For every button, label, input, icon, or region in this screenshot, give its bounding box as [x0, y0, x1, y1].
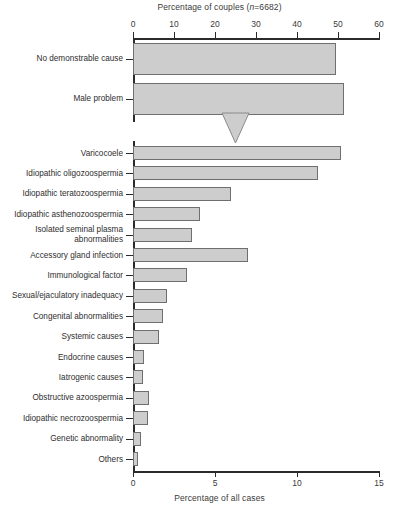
category-label: Immunological factor	[0, 271, 123, 281]
top-axis-tick	[297, 32, 298, 38]
bar[interactable]	[133, 207, 200, 221]
bar[interactable]	[133, 289, 167, 303]
top-axis-tick	[379, 32, 380, 38]
bottom-axis-tick	[215, 472, 216, 477]
top-axis-tick-label: 30	[251, 19, 260, 29]
category-tick	[126, 275, 133, 276]
bar[interactable]	[133, 432, 141, 446]
bar[interactable]	[133, 228, 192, 242]
category-label: Iatrogenic causes	[0, 373, 123, 383]
bar[interactable]	[133, 370, 143, 384]
category-tick	[126, 99, 133, 100]
category-tick	[126, 377, 133, 378]
bar[interactable]	[133, 187, 231, 201]
category-label: Accessory gland infection	[0, 251, 123, 261]
bottom-axis-tick	[379, 472, 380, 477]
category-tick	[126, 316, 133, 317]
category-tick	[126, 255, 133, 256]
bottom-axis-line	[133, 471, 380, 473]
category-label: Idiopathic asthenozoospermia	[0, 210, 123, 220]
category-tick	[126, 337, 133, 338]
bottom-axis-tick	[297, 472, 298, 477]
bar[interactable]	[133, 268, 187, 282]
bar[interactable]	[133, 43, 336, 75]
category-tick	[126, 439, 133, 440]
category-tick	[126, 459, 133, 460]
category-label: No demonstrable cause	[0, 54, 123, 64]
top-axis-tick	[338, 32, 339, 38]
category-label: Idiopathic teratozoospermia	[0, 189, 123, 199]
category-tick	[126, 398, 133, 399]
top-axis-tick-label: 50	[333, 19, 342, 29]
top-axis-line	[133, 38, 380, 40]
bar[interactable]	[133, 83, 344, 115]
category-label: Genetic abnormality	[0, 434, 123, 444]
down-triangle-marker-icon	[221, 112, 250, 144]
category-label: Obstructive azoospermia	[0, 393, 123, 403]
category-label: Idiopathic necrozoospermia	[0, 414, 123, 424]
category-label: Varicocoele	[0, 149, 123, 159]
bar[interactable]	[133, 330, 159, 344]
category-tick	[126, 214, 133, 215]
bar[interactable]	[133, 391, 149, 405]
category-tick	[126, 235, 133, 236]
category-tick	[126, 59, 133, 60]
category-tick	[126, 173, 133, 174]
bar[interactable]	[133, 248, 248, 262]
category-label: Isolated seminal plasma abnormalities	[0, 225, 123, 244]
top-axis-tick	[174, 32, 175, 38]
category-tick	[126, 357, 133, 358]
top-axis-tick-label: 20	[210, 19, 219, 29]
bar[interactable]	[133, 411, 148, 425]
infertility-causes-bar-chart: Percentage of couples (n=6682) 010203040…	[0, 0, 401, 511]
bottom-axis-tick-label: 10	[292, 478, 301, 488]
bottom-axis-title: Percentage of all cases	[0, 493, 401, 503]
category-tick	[126, 418, 133, 419]
bar[interactable]	[133, 309, 163, 323]
top-axis-tick-label: 0	[131, 19, 136, 29]
bar[interactable]	[133, 452, 138, 466]
category-label: Others	[0, 455, 123, 465]
bottom-axis-tick-label: 15	[374, 478, 383, 488]
top-axis-tick	[133, 32, 134, 38]
bar[interactable]	[133, 146, 341, 160]
category-tick	[126, 296, 133, 297]
category-label: Idiopathic oligozoospermia	[0, 169, 123, 179]
top-axis-tick	[215, 32, 216, 38]
bottom-axis-tick-label: 0	[131, 478, 136, 488]
top-axis-tick	[256, 32, 257, 38]
category-tick	[126, 194, 133, 195]
bottom-axis-tick	[133, 472, 134, 477]
category-label: Congenital abnormalities	[0, 312, 123, 322]
category-label: Sexual/ejaculatory inadequacy	[0, 291, 123, 301]
top-axis-tick-label: 40	[292, 19, 301, 29]
bar[interactable]	[133, 166, 318, 180]
category-label: Systemic causes	[0, 332, 123, 342]
top-axis-title-suffix: =6682)	[254, 2, 281, 12]
category-tick	[126, 153, 133, 154]
bottom-axis-tick-label: 5	[213, 478, 218, 488]
top-axis-tick-label: 60	[374, 19, 383, 29]
bar[interactable]	[133, 350, 144, 364]
top-axis-tick-label: 10	[169, 19, 178, 29]
category-label: Male problem	[0, 94, 123, 104]
category-label: Endocrine causes	[0, 353, 123, 363]
top-axis-title-prefix: Percentage of couples (	[157, 2, 249, 12]
top-axis-title: Percentage of couples (n=6682)	[0, 2, 401, 12]
